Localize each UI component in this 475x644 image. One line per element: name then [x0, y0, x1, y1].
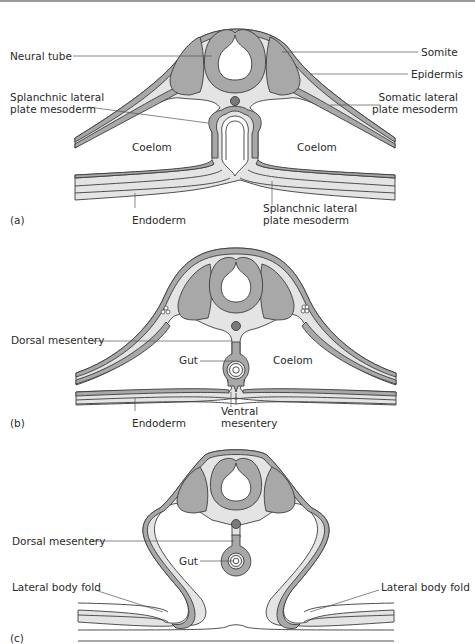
label-line-1: Splanchnic lateral	[263, 202, 357, 214]
label-somite: Somite	[421, 46, 458, 58]
panel-b-drawing	[76, 248, 396, 405]
label-line-1: Ventral	[221, 405, 277, 417]
label-dorsal-mesentery-b: Dorsal mesentery	[11, 334, 104, 346]
label-epidermis: Epidermis	[411, 68, 463, 80]
label-line-2: mesentery	[221, 417, 277, 429]
label-line-1: Somatic lateral	[372, 91, 458, 103]
label-line-2: plate mesoderm	[10, 103, 104, 115]
label-endoderm-b: Endoderm	[132, 417, 186, 429]
label-lateral-body-fold-right: Lateral body fold	[381, 581, 470, 593]
label-splanchnic-lateral-plate-mesoderm: Splanchnic lateral plate mesoderm	[10, 91, 104, 115]
label-ventral-mesentery: Ventral mesentery	[221, 405, 277, 429]
panel-c-tag: (c)	[10, 632, 24, 644]
panel-c-somite-left	[177, 467, 208, 513]
label-gut-c: Gut	[179, 555, 198, 567]
label-coelom-b: Coelom	[273, 354, 313, 366]
label-neural-tube: Neural tube	[10, 50, 72, 62]
label-gut-b: Gut	[179, 354, 198, 366]
label-splanchnic-bottom: Splanchnic lateral plate mesoderm	[263, 202, 357, 226]
panel-c-notochord	[232, 520, 241, 529]
label-line-1: Splanchnic lateral	[10, 91, 104, 103]
panel-c-drawing	[78, 450, 394, 641]
panel-b-notochord	[232, 322, 241, 331]
label-line-2: plate mesoderm	[372, 103, 458, 115]
label-coelom-right: Coelom	[297, 141, 337, 153]
label-dorsal-mesentery-c: Dorsal mesentery	[12, 535, 105, 547]
panel-b-tag: (b)	[10, 417, 25, 429]
embryo-cross-section-figure: Neural tube Somite Epidermis Splanchnic …	[0, 0, 475, 644]
panel-b-gut	[233, 367, 239, 373]
label-endoderm-a: Endoderm	[132, 214, 186, 226]
label-line-2: plate mesoderm	[263, 214, 357, 226]
label-lateral-body-fold-left: Lateral body fold	[12, 581, 101, 593]
panel-a-notochord	[231, 97, 240, 106]
panel-a-drawing	[75, 29, 395, 200]
panel-b-neural-crest-right	[301, 305, 309, 313]
panel-a-somite-left	[170, 37, 204, 95]
panel-a-tag: (a)	[10, 214, 25, 226]
panel-c-somite-right	[264, 467, 295, 513]
panel-c-gut	[233, 558, 239, 564]
label-coelom-left: Coelom	[132, 141, 172, 153]
label-somatic-lateral-plate-mesoderm: Somatic lateral plate mesoderm	[372, 91, 458, 115]
